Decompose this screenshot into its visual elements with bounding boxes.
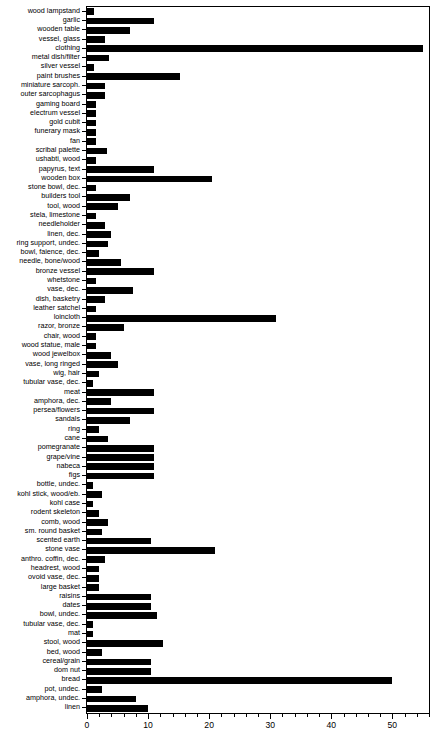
bar xyxy=(87,148,107,155)
bar xyxy=(87,594,151,601)
x-axis-minor-tick xyxy=(221,714,222,717)
y-axis-label: wood jewelbox xyxy=(33,350,80,357)
bar xyxy=(87,333,96,340)
bar xyxy=(87,426,99,433)
y-axis-label: chair, wood xyxy=(44,332,80,339)
bar xyxy=(87,315,276,322)
y-axis-label: dish, basketry xyxy=(36,295,80,302)
y-axis-label: amphora, dec. xyxy=(34,397,80,404)
y-axis-label: leather satchel xyxy=(33,304,80,311)
y-axis-label: metal dish/filter xyxy=(32,53,80,60)
x-axis-major-tick xyxy=(392,714,393,719)
bar xyxy=(87,631,93,638)
bar xyxy=(87,231,111,238)
y-axis-label: vase, long ringed xyxy=(25,360,80,367)
bar xyxy=(87,352,111,359)
bar xyxy=(87,436,108,443)
y-axis-label: ushabti, wood xyxy=(36,155,80,162)
y-axis-label: tool, wood xyxy=(47,202,80,209)
bar xyxy=(87,463,154,470)
x-axis-tick-label: 10 xyxy=(143,720,153,730)
y-axis-label: clothing xyxy=(55,44,80,51)
x-axis-major-tick xyxy=(331,714,332,719)
x-axis-minor-tick xyxy=(124,714,125,717)
y-axis-label: stool, wood xyxy=(44,638,80,645)
y-axis-label: kohl case xyxy=(50,499,80,506)
y-axis-label: scented earth xyxy=(36,536,80,543)
x-axis-minor-tick xyxy=(429,714,430,717)
x-axis-tick-label: 0 xyxy=(85,720,90,730)
x-axis-major-tick xyxy=(209,714,210,719)
y-axis-label: bowl, undec. xyxy=(40,610,80,617)
y-axis-label: gaming board xyxy=(36,100,80,107)
bar xyxy=(87,259,121,266)
x-axis-minor-tick xyxy=(136,714,137,717)
y-axis-label: wooden table xyxy=(37,25,80,32)
bar xyxy=(87,203,118,210)
x-axis-minor-tick xyxy=(405,714,406,717)
y-axis-label: papyrus, text xyxy=(39,165,80,172)
bar xyxy=(87,83,105,90)
y-axis-label: stone bowl, dec. xyxy=(28,183,80,190)
bar xyxy=(87,668,151,675)
x-axis-major-tick xyxy=(148,714,149,719)
bar xyxy=(87,380,93,387)
y-axis-label: kohl stick, wood/eb. xyxy=(17,490,80,497)
x-axis-minor-tick xyxy=(319,714,320,717)
x-axis-tick-label: 20 xyxy=(204,720,214,730)
y-axis-label: paint brushes xyxy=(37,72,80,79)
bar xyxy=(87,92,105,99)
bar xyxy=(87,361,118,368)
y-axis-label: sandals xyxy=(55,415,80,422)
bar xyxy=(87,194,130,201)
y-axis-label: cane xyxy=(64,434,80,441)
bar xyxy=(87,473,154,480)
y-axis-label: stone vase xyxy=(45,545,80,552)
x-axis-tick-label: 30 xyxy=(265,720,275,730)
bar xyxy=(87,185,96,192)
x-axis-minor-tick xyxy=(417,714,418,717)
bar xyxy=(87,640,163,647)
bar xyxy=(87,686,102,693)
y-axis-label: wig, hair xyxy=(53,369,80,376)
bar xyxy=(87,417,130,424)
bar xyxy=(87,18,154,25)
y-axis-label: ring support, undec. xyxy=(16,239,80,246)
bar xyxy=(87,519,108,526)
bar xyxy=(87,510,99,517)
y-axis-label: razor, bronze xyxy=(38,322,80,329)
bar xyxy=(87,64,94,71)
bar xyxy=(87,547,215,554)
y-axis-label: loincloth xyxy=(54,313,80,320)
bar xyxy=(87,501,93,508)
y-axis-label: mat xyxy=(68,629,80,636)
bar xyxy=(87,556,105,563)
bar xyxy=(87,36,105,43)
bar xyxy=(87,129,96,136)
x-axis-minor-tick xyxy=(111,714,112,717)
y-axis-label: gold cubit xyxy=(49,118,80,125)
bar xyxy=(87,659,151,666)
y-axis-label: miniature sarcoph. xyxy=(21,81,80,88)
bar xyxy=(87,73,180,80)
bar xyxy=(87,705,148,712)
bar xyxy=(87,27,130,34)
y-axis-label: electrum vessel xyxy=(30,109,80,116)
y-axis-label: garlic xyxy=(63,16,80,23)
x-axis-major-tick xyxy=(270,714,271,719)
bar xyxy=(87,566,99,573)
y-axis-label: ring xyxy=(68,425,80,432)
x-axis-minor-tick xyxy=(356,714,357,717)
x-axis-minor-tick xyxy=(246,714,247,717)
bar xyxy=(87,45,423,52)
y-axis-label: wood statue, male xyxy=(22,341,80,348)
bar xyxy=(87,612,157,619)
y-axis-label: ovoid vase, dec. xyxy=(28,573,80,580)
x-axis-minor-tick xyxy=(295,714,296,717)
y-axis-label: persea/flowers xyxy=(33,406,80,413)
y-axis-label: sm. round basket xyxy=(25,527,80,534)
x-axis-minor-tick xyxy=(380,714,381,717)
y-axis-label: pomegranate xyxy=(38,443,80,450)
bar xyxy=(87,575,99,582)
bar xyxy=(87,445,154,452)
